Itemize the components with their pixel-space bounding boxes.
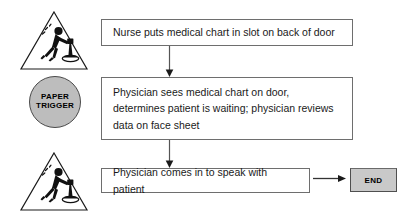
flowchart-canvas: PAPER TRIGGER <box>0 0 412 222</box>
process-box-physician-sees[interactable]: Physician sees medical chart on door, de… <box>101 77 353 140</box>
process-box-nurse-chart[interactable]: Nurse puts medical chart in slot on back… <box>101 19 353 46</box>
end-terminator[interactable]: END <box>350 168 397 192</box>
connector-speak-to-end <box>313 174 347 183</box>
paper-trigger-badge: PAPER TRIGGER <box>29 76 81 128</box>
process-box-physician-speaks[interactable]: Physician comes in to speak with patient <box>101 168 310 193</box>
trigger-warning-triangle-icon <box>18 150 90 213</box>
paper-trigger-line2: TRIGGER <box>36 102 74 111</box>
trigger-warning-triangle-icon <box>18 9 90 72</box>
process-box-physician-sees-text: Physician sees medical chart on door, de… <box>102 84 345 134</box>
end-terminator-label: END <box>364 176 382 185</box>
connector-nurse-to-physician <box>165 46 174 77</box>
process-box-physician-speaks-text: Physician comes in to speak with patient <box>102 164 309 197</box>
process-box-nurse-chart-text: Nurse puts medical chart in slot on back… <box>102 24 346 41</box>
